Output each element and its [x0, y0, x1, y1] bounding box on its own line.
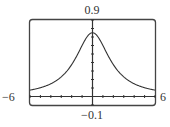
graph-window — [0, 0, 170, 127]
